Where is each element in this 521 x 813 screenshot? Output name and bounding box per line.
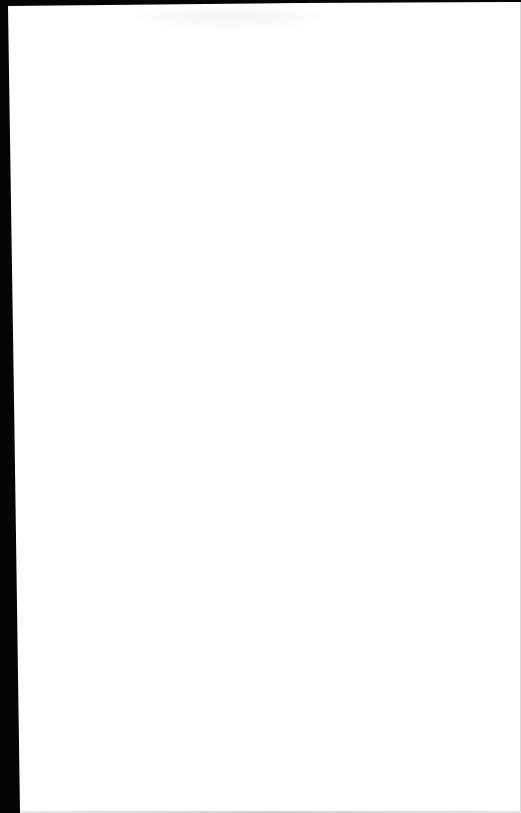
blank-paper-sheet — [0, 0, 521, 813]
paper-shading — [130, 3, 330, 31]
